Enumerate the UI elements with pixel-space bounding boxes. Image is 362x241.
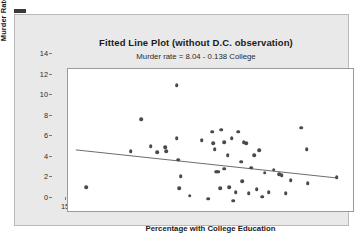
- y-tick-label: 12: [22, 69, 48, 78]
- data-point: [206, 197, 210, 201]
- chart-page: Fitted Line Plot (without D.C. observati…: [0, 0, 362, 241]
- data-point: [179, 174, 183, 178]
- data-point: [305, 147, 309, 151]
- data-point: [289, 178, 293, 182]
- data-point: [263, 171, 267, 175]
- data-point: [85, 185, 89, 189]
- data-point: [164, 149, 168, 153]
- data-point: [272, 168, 276, 172]
- data-point: [260, 195, 264, 199]
- y-tick-label: 2: [22, 172, 48, 181]
- x-tick-mark: [65, 197, 66, 200]
- data-point: [230, 136, 234, 140]
- y-tick-mark: [49, 74, 52, 75]
- data-point: [140, 118, 144, 122]
- plot-area: [67, 68, 354, 212]
- data-point: [149, 144, 153, 148]
- data-point: [163, 145, 167, 149]
- data-point: [176, 158, 180, 162]
- y-tick-label: 6: [22, 131, 48, 140]
- data-point: [222, 140, 226, 144]
- data-point: [255, 188, 259, 192]
- y-tick-mark: [49, 197, 52, 198]
- data-point: [299, 126, 303, 130]
- data-point: [258, 148, 262, 152]
- y-tick-mark: [49, 115, 52, 116]
- data-point: [222, 167, 226, 171]
- data-point: [234, 191, 238, 195]
- data-point: [200, 138, 204, 142]
- x-axis-label: Percentage with College Education: [67, 224, 354, 233]
- data-point: [175, 84, 179, 88]
- data-point: [237, 130, 241, 134]
- data-point: [213, 147, 217, 151]
- data-point: [217, 170, 221, 174]
- data-point: [175, 136, 179, 140]
- plot-inner: [68, 69, 353, 211]
- data-point: [267, 191, 271, 195]
- data-point: [244, 141, 248, 145]
- data-point: [226, 154, 230, 158]
- data-point: [220, 128, 224, 132]
- y-tick-label: 0: [22, 193, 48, 202]
- y-tick-label: 10: [22, 90, 48, 99]
- data-point: [252, 154, 256, 158]
- y-tick-label: 14: [22, 49, 48, 58]
- data-point: [239, 160, 243, 164]
- data-point: [218, 187, 222, 191]
- fitted-regression-line: [68, 69, 353, 211]
- y-tick-mark: [49, 135, 52, 136]
- data-point: [335, 175, 339, 179]
- chart-title: Fitted Line Plot (without D.C. observati…: [15, 37, 362, 48]
- y-tick-mark: [49, 176, 52, 177]
- graph-panel: Fitted Line Plot (without D.C. observati…: [14, 14, 349, 226]
- y-tick-label: 4: [22, 151, 48, 160]
- y-tick-mark: [49, 94, 52, 95]
- chart-subtitle: Murder rate = 8.04 - 0.138 College: [15, 52, 362, 61]
- data-point: [188, 194, 192, 198]
- data-point: [247, 192, 251, 196]
- data-point: [250, 166, 254, 170]
- data-point: [129, 149, 133, 153]
- data-point: [155, 151, 159, 155]
- data-point: [227, 185, 231, 189]
- y-axis-label: Murder Rate: [0, 0, 8, 79]
- data-point: [240, 179, 244, 183]
- y-tick-mark: [49, 156, 52, 157]
- data-point: [306, 181, 310, 185]
- window-handle-artifact: [14, 9, 26, 13]
- data-point: [284, 192, 288, 196]
- y-tick-mark: [49, 53, 52, 54]
- data-point: [210, 130, 214, 134]
- data-point: [212, 141, 216, 145]
- data-point: [231, 199, 235, 203]
- data-point: [280, 173, 284, 177]
- y-tick-label: 8: [22, 110, 48, 119]
- data-point: [178, 187, 182, 191]
